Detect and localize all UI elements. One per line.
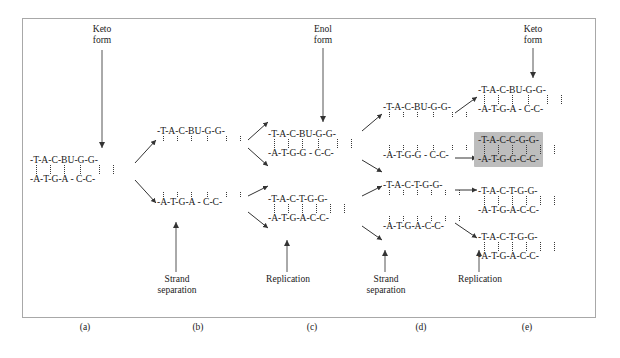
strand-e3-top: -T-A-C-T-G-G- (478, 186, 539, 196)
strand-b-bottom: -A-T-G-A - C-C- (157, 197, 222, 207)
label-keto-form-a-line1: Keto (72, 24, 132, 35)
strand-e2-top: -T-A-C-C-G-G- (478, 135, 539, 145)
hbonds-d2-top (383, 190, 443, 195)
strand-d2-top: -T-A-C-T-G-G- (383, 180, 443, 190)
strand-d1-bottom: -A-T-G-G - C-C- (383, 150, 449, 160)
label-strand-separation-2-line1: Strand (350, 274, 422, 285)
strand-c2-top: -T-A-C-T-G-G- (268, 194, 329, 204)
strand-e4-bottom: -A-T-G-A-C-C- (478, 251, 539, 261)
duplex-e-2-mutant-highlight: -T-A-C-C-G-G- -A-T-G-G-C-C- (474, 132, 543, 167)
strand-d2-bottom: -A-T-G-A-C-C- (383, 221, 444, 231)
strandset-d-1: -T-A-C-BU-G-G- (383, 102, 451, 117)
label-enol-form-line1: Enol (293, 24, 353, 35)
label-keto-form-e-line1: Keto (503, 24, 563, 35)
hbonds-d2-bottom (383, 216, 444, 221)
label-replication-1-text: Replication (249, 274, 327, 285)
hbonds-e1 (478, 95, 546, 104)
duplex-c-2: -T-A-C-T-G-G- -A-T-G-A-C-C- (268, 194, 329, 222)
hbonds-e4 (478, 242, 539, 251)
strand-c1-bottom: -A-T-G-G - C-C- (268, 148, 336, 158)
duplex-a-1: -T-A-C-BU-G-G- -A-T-G-A - C-C- (30, 155, 98, 183)
strandset-d-2: -A-T-G-G - C-C- (383, 145, 449, 160)
strand-d1-top: -T-A-C-BU-G-G- (383, 102, 451, 112)
strand-e2-bottom: -A-T-G-G-C-C- (478, 154, 539, 164)
strand-b-top: -T-A-C-BU-G-G- (157, 126, 225, 136)
label-replication-2: Replication (441, 274, 519, 285)
strand-c1-top: -T-A-C-BU-G-G- (268, 129, 336, 139)
hbonds-c2 (268, 204, 329, 213)
strandset-b-bottom: -A-T-G-A - C-C- (157, 192, 222, 207)
label-strand-separation-2: Strand separation (350, 274, 422, 296)
label-strand-separation-1: Strand separation (141, 274, 213, 296)
duplex-c-1: -T-A-C-BU-G-G- -A-T-G-G - C-C- (268, 129, 336, 157)
duplex-e-3: -T-A-C-T-G-G- -A-T-G-A-C-C- (478, 186, 539, 214)
hbonds-e3 (478, 196, 539, 205)
label-enol-form-line2: form (293, 35, 353, 46)
strand-a-top: -T-A-C-BU-G-G- (30, 155, 98, 165)
panel-letter-a: (a) (70, 322, 100, 332)
label-keto-form-e-line2: form (503, 35, 563, 46)
hbonds-d1-bottom (383, 145, 449, 150)
panel-letter-e: (e) (512, 322, 542, 332)
label-replication-2-text: Replication (441, 274, 519, 285)
label-keto-form-a: Keto form (72, 24, 132, 46)
panel-letter-d: (d) (406, 322, 436, 332)
label-replication-1: Replication (249, 274, 327, 285)
label-enol-form: Enol form (293, 24, 353, 46)
label-keto-form-a-line2: form (72, 35, 132, 46)
duplex-e-4: -T-A-C-T-G-G- -A-T-G-A-C-C- (478, 232, 539, 260)
strand-e4-top: -T-A-C-T-G-G- (478, 232, 539, 242)
figure-container: Keto form -T-A-C-BU-G-G- -A-T-G-A - C-C-… (0, 0, 620, 358)
label-strand-separation-1-line2: separation (141, 285, 213, 296)
figure-frame (22, 18, 596, 318)
strandset-d-3: -T-A-C-T-G-G- (383, 180, 443, 195)
strand-c2-bottom: -A-T-G-A-C-C- (268, 213, 329, 223)
strand-e1-bottom: -A-T-G-A - C-C- (478, 104, 546, 114)
strand-e3-bottom: -A-T-G-A-C-C- (478, 205, 539, 215)
strand-a-bottom: -A-T-G-A - C-C- (30, 174, 98, 184)
hbonds-b-bottom (157, 192, 222, 197)
strand-e1-top: -T-A-C-BU-G-G- (478, 85, 546, 95)
hbonds-e2 (478, 145, 539, 154)
hbonds-b-top (157, 136, 225, 141)
duplex-e-1: -T-A-C-BU-G-G- -A-T-G-A - C-C- (478, 85, 546, 113)
panel-letter-b: (b) (183, 322, 213, 332)
hbonds-c1 (268, 139, 336, 148)
label-keto-form-e: Keto form (503, 24, 563, 46)
hbonds-d1-top (383, 112, 451, 117)
strandset-d-4: -A-T-G-A-C-C- (383, 216, 444, 231)
strandset-b-top: -T-A-C-BU-G-G- (157, 126, 225, 141)
panel-letter-c: (c) (297, 322, 327, 332)
hbonds-a (30, 165, 98, 174)
label-strand-separation-2-line2: separation (350, 285, 422, 296)
label-strand-separation-1-line1: Strand (141, 274, 213, 285)
